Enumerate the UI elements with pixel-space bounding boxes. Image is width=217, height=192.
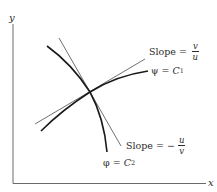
slope-denominator: v <box>179 146 184 155</box>
phi-symbol: φ <box>103 158 110 168</box>
y-axis-label: y <box>9 13 15 23</box>
psi-slope-label: Slope = v u <box>149 42 199 61</box>
constant-symbol: C <box>172 66 179 76</box>
slope-word: Slope = <box>149 47 187 57</box>
slope-denominator: u <box>193 52 198 61</box>
slope-word: Slope = <box>126 141 164 151</box>
equals-sign: = <box>113 158 121 168</box>
slope-fraction: u v <box>178 136 185 155</box>
slope-numerator: u <box>178 136 185 146</box>
x-axis-label: x <box>208 178 214 188</box>
psi-curve-label: ψ = C1 <box>151 66 184 76</box>
constant-symbol: C <box>124 158 131 168</box>
slope-sign: − <box>167 141 175 151</box>
phi-slope-label: Slope = − u v <box>126 136 185 155</box>
constant-subscript: 1 <box>180 68 184 75</box>
constant-subscript: 2 <box>131 160 135 167</box>
slope-fraction: v u <box>192 42 199 61</box>
equals-sign: = <box>161 66 169 76</box>
psi-symbol: ψ <box>151 66 158 76</box>
slope-numerator: v <box>192 42 199 52</box>
phi-curve-label: φ = C2 <box>103 158 135 168</box>
